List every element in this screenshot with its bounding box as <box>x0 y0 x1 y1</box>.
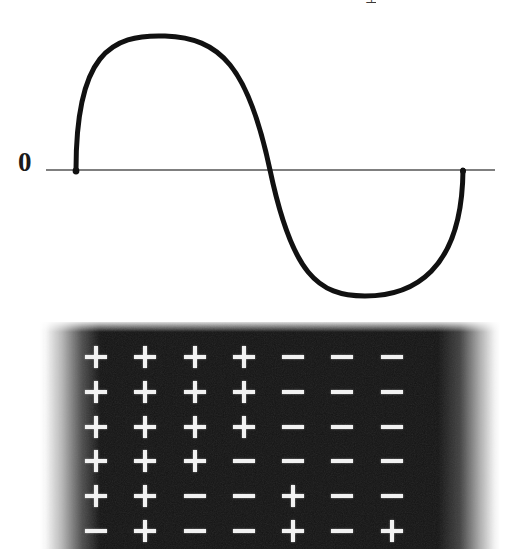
charge-panel-background <box>40 322 500 549</box>
curve-end-marker <box>460 168 466 174</box>
sine-wave-curve <box>76 36 463 296</box>
curve-start-marker <box>73 168 80 175</box>
figure-root: ⊥ 0 <box>0 0 515 549</box>
wave-plot-panel: ⊥ 0 <box>0 0 515 320</box>
charge-grid-panel <box>0 320 515 549</box>
wave-svg <box>0 0 515 320</box>
zero-axis-label: 0 <box>18 149 32 176</box>
